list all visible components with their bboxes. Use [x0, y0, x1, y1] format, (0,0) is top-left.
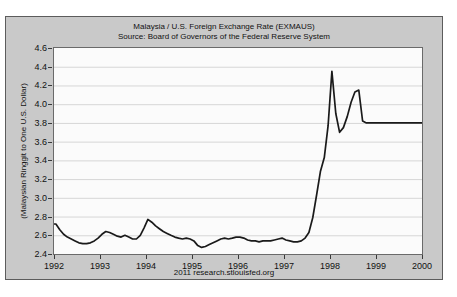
y-tick-mark	[48, 235, 52, 236]
y-tick-label: 3.0	[23, 194, 47, 203]
x-tick-label: 1994	[129, 262, 163, 271]
y-tick-mark	[48, 179, 52, 180]
x-tick-label: 1996	[221, 262, 255, 271]
x-tick-mark	[100, 255, 101, 259]
exchange-rate-line-chart	[54, 48, 422, 254]
x-tick-mark	[192, 255, 193, 259]
y-tick-mark	[48, 48, 52, 49]
fred-chart-figure: Malaysia / U.S. Foreign Exchange Rate (E…	[5, 16, 443, 280]
y-tick-label: 3.2	[23, 175, 47, 184]
y-tick-label: 2.8	[23, 213, 47, 222]
chart-title: Malaysia / U.S. Foreign Exchange Rate (E…	[6, 22, 442, 32]
y-tick-label: 3.4	[23, 156, 47, 165]
y-tick-label: 2.6	[23, 231, 47, 240]
x-tick-mark	[330, 255, 331, 259]
x-tick-label: 2000	[405, 262, 439, 271]
y-tick-mark	[48, 160, 52, 161]
x-tick-mark	[376, 255, 377, 259]
y-tick-label: 3.8	[23, 119, 47, 128]
y-tick-mark	[48, 217, 52, 218]
y-tick-mark	[48, 254, 52, 255]
y-axis-title: (Malaysian Ringgit to One U.S. Dollar)	[19, 48, 29, 254]
x-tick-mark	[422, 255, 423, 259]
x-tick-label: 1992	[37, 262, 71, 271]
y-tick-label: 4.0	[23, 100, 47, 109]
y-tick-label: 3.6	[23, 138, 47, 147]
x-tick-label: 1993	[83, 262, 117, 271]
y-tick-label: 4.4	[23, 63, 47, 72]
exchange-rate-line-series	[54, 71, 422, 247]
x-tick-label: 1995	[175, 262, 209, 271]
x-tick-mark	[238, 255, 239, 259]
chart-header: Malaysia / U.S. Foreign Exchange Rate (E…	[6, 22, 442, 42]
y-tick-mark	[48, 104, 52, 105]
y-tick-mark	[48, 123, 52, 124]
x-tick-label: 1998	[313, 262, 347, 271]
y-tick-mark	[48, 67, 52, 68]
y-tick-label: 4.2	[23, 81, 47, 90]
x-tick-label: 1997	[267, 262, 301, 271]
y-tick-mark	[48, 85, 52, 86]
plot-area	[53, 47, 423, 255]
x-tick-mark	[54, 255, 55, 259]
y-tick-mark	[48, 142, 52, 143]
x-tick-label: 1999	[359, 262, 393, 271]
x-tick-mark	[284, 255, 285, 259]
y-tick-mark	[48, 198, 52, 199]
x-tick-mark	[146, 255, 147, 259]
y-tick-label: 2.4	[23, 250, 47, 259]
y-tick-label: 4.6	[23, 44, 47, 53]
chart-source: Source: Board of Governors of the Federa…	[6, 32, 442, 42]
